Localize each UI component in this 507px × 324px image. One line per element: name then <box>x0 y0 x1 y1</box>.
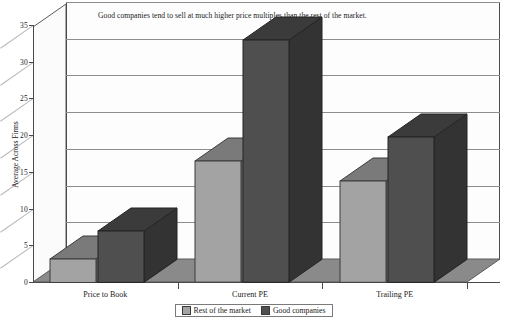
legend-label: Rest of the market <box>193 306 250 315</box>
bar-price-to-book-rest-of-the-market[interactable] <box>50 236 96 282</box>
bar-chart: 05101520253035 Average Across Firms Pric… <box>0 0 507 324</box>
y-axis-tick-label: 30 <box>6 57 28 66</box>
y-axis-title: Average Across Firms <box>11 100 20 210</box>
bar-current-pe-good-companies[interactable] <box>243 17 289 282</box>
y-axis-tick <box>29 209 34 210</box>
y-axis-tick <box>29 172 34 173</box>
y-axis-tick-label: 5 <box>6 241 28 250</box>
gridline <box>66 2 500 3</box>
y-axis-tick <box>29 98 34 99</box>
bar-current-pe-rest-of-the-market[interactable] <box>195 138 241 282</box>
bar-side-face <box>289 17 322 282</box>
bar-front-face <box>388 137 434 282</box>
y-axis-tick-label: 0 <box>6 278 28 287</box>
legend-swatch-icon <box>261 306 270 315</box>
x-axis-tick-label: Current PE <box>232 290 268 299</box>
chart-legend: Rest of the market Good companies <box>174 304 332 317</box>
legend-label: Good companies <box>273 306 326 315</box>
y-axis-tick <box>29 245 34 246</box>
bar-price-to-book-good-companies[interactable] <box>98 208 144 282</box>
legend-swatch-icon <box>181 306 190 315</box>
bar-trailing-pe-rest-of-the-market[interactable] <box>340 158 386 282</box>
bar-front-face <box>195 161 241 282</box>
bar-side-face <box>434 114 467 282</box>
y-axis-tick <box>29 25 34 26</box>
legend-item-good-companies[interactable]: Good companies <box>261 306 326 315</box>
x-axis-tick-label: Price to Book <box>83 290 127 299</box>
x-axis-tick-label: Trailing PE <box>376 290 413 299</box>
y-axis-tick <box>29 62 34 63</box>
bar-front-face <box>98 231 144 282</box>
y-axis <box>33 25 34 282</box>
y-axis-tick <box>29 282 34 283</box>
bar-front-face <box>50 259 96 282</box>
bar-trailing-pe-good-companies[interactable] <box>388 114 434 282</box>
legend-item-rest-of-the-market[interactable]: Rest of the market <box>181 306 250 315</box>
y-axis-tick-label: 35 <box>6 21 28 30</box>
bar-front-face <box>243 40 289 282</box>
bar-front-face <box>340 181 386 282</box>
y-axis-tick <box>29 135 34 136</box>
chart-title: Good companies tend to sell at much high… <box>98 11 367 20</box>
